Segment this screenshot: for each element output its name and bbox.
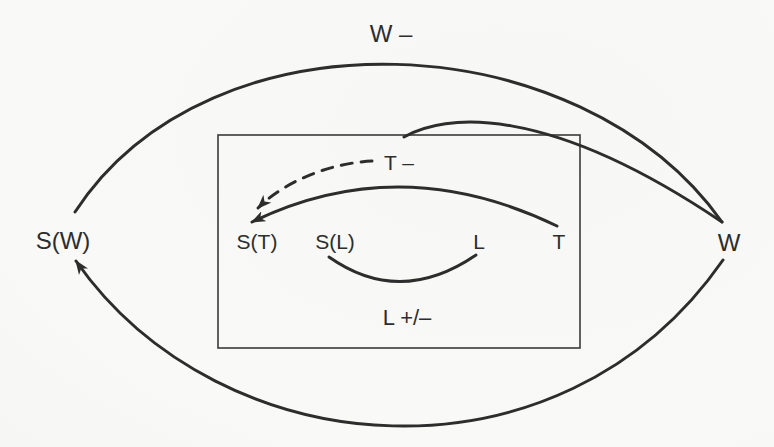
node-t: T <box>553 230 566 253</box>
label-t-minus: T – <box>384 151 414 174</box>
node-s-of-t: S(T) <box>237 230 278 253</box>
arc-sl-to-l <box>329 255 476 282</box>
arc-w-to-box <box>404 122 722 222</box>
arc-w-to-sw <box>76 260 723 426</box>
arc-w-minus <box>75 64 722 222</box>
node-s-of-l: S(L) <box>315 230 355 253</box>
diagram-canvas: W – S(W) W T – S(T) S(L) L T L +/– <box>0 0 774 447</box>
node-l: L <box>473 230 485 253</box>
label-w-minus: W – <box>370 20 413 47</box>
node-s-of-w: S(W) <box>36 227 91 254</box>
dashed-arc-t-minus <box>258 161 372 208</box>
node-w: W <box>718 229 741 256</box>
label-l-plus-minus: L +/– <box>383 305 432 330</box>
arc-t-to-st <box>252 187 557 226</box>
system-diagram: W – S(W) W T – S(T) S(L) L T L +/– <box>0 0 774 447</box>
